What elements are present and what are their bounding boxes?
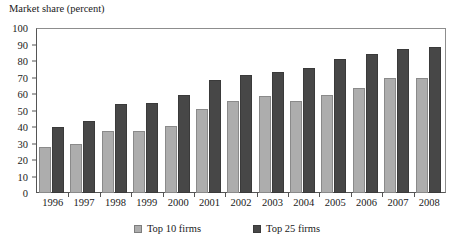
x-tick-mark xyxy=(257,193,258,197)
bar-top-10-firms xyxy=(196,109,208,193)
bar-group xyxy=(37,29,68,193)
x-tick-mark xyxy=(68,193,69,197)
bar-group xyxy=(288,29,319,193)
x-tick-label: 1997 xyxy=(74,197,95,209)
bar-top-10-firms xyxy=(70,144,82,193)
bar-group xyxy=(319,29,350,193)
bar-top-10-firms xyxy=(259,96,271,193)
legend-label: Top 25 firms xyxy=(266,223,320,235)
bar-group xyxy=(225,29,256,193)
bar-group xyxy=(131,29,162,193)
bar-top-25-firms xyxy=(115,104,127,193)
y-axis: 1009080706050403020100 xyxy=(0,28,36,193)
bar-group xyxy=(257,29,288,193)
y-tick-label: 40 xyxy=(18,122,29,133)
x-tick-label: 2005 xyxy=(325,197,346,209)
y-tick-label: 30 xyxy=(18,138,29,149)
bar-group xyxy=(382,29,413,193)
bar-top-25-firms xyxy=(366,54,378,193)
bar-top-10-firms xyxy=(321,95,333,193)
bar-top-25-firms xyxy=(240,75,252,193)
legend-swatch-top-25-firms xyxy=(253,225,261,233)
x-tick-label: 2004 xyxy=(293,197,314,209)
y-tick-label: 10 xyxy=(18,171,29,182)
legend-label: Top 10 firms xyxy=(147,223,201,235)
x-tick-mark xyxy=(319,193,320,197)
bar-top-25-firms xyxy=(397,49,409,193)
bar-top-25-firms xyxy=(209,80,221,193)
y-tick-label: 0 xyxy=(23,188,28,199)
x-tick-mark xyxy=(194,193,195,197)
bar-top-25-firms xyxy=(83,121,95,193)
bar-group xyxy=(351,29,382,193)
bar-top-10-firms xyxy=(384,78,396,193)
y-axis-title: Market share (percent) xyxy=(9,3,105,15)
bar-top-25-firms xyxy=(429,47,441,193)
y-tick-label: 90 xyxy=(18,39,29,50)
x-tick-mark xyxy=(288,193,289,197)
bar-top-10-firms xyxy=(165,126,177,193)
bar-group xyxy=(163,29,194,193)
chart-legend: Top 10 firmsTop 25 firms xyxy=(0,223,454,235)
bar-top-10-firms xyxy=(102,131,114,193)
x-tick-label: 1998 xyxy=(105,197,126,209)
x-tick-label: 1996 xyxy=(42,197,63,209)
y-tick-label: 50 xyxy=(18,105,29,116)
bar-group xyxy=(414,29,445,193)
x-axis: 1996199719981999200020012002200320042005… xyxy=(37,195,445,211)
x-tick-label: 2000 xyxy=(168,197,189,209)
bar-top-10-firms xyxy=(133,131,145,193)
y-tick-label: 60 xyxy=(18,89,29,100)
x-tick-mark xyxy=(382,193,383,197)
bar-chart-figure: Market share (percent) 10090807060504030… xyxy=(0,0,454,249)
bar-top-25-firms xyxy=(303,68,315,193)
bar-top-10-firms xyxy=(353,88,365,193)
x-tick-mark xyxy=(225,193,226,197)
x-tick-mark xyxy=(163,193,164,197)
bar-top-25-firms xyxy=(146,103,158,193)
y-tick-label: 70 xyxy=(18,72,29,83)
bar-top-25-firms xyxy=(178,95,190,193)
x-tick-label: 2002 xyxy=(231,197,252,209)
y-tick-label: 20 xyxy=(18,155,29,166)
x-tick-label: 1999 xyxy=(136,197,157,209)
bar-top-10-firms xyxy=(290,101,302,193)
x-tick-mark xyxy=(351,193,352,197)
bar-top-10-firms xyxy=(39,147,51,193)
bar-top-25-firms xyxy=(52,127,64,193)
x-tick-mark xyxy=(131,193,132,197)
x-tick-label: 2007 xyxy=(387,197,408,209)
legend-swatch-top-10-firms xyxy=(134,225,142,233)
x-tick-mark xyxy=(100,193,101,197)
x-tick-label: 2001 xyxy=(199,197,220,209)
x-tick-mark xyxy=(414,193,415,197)
bar-top-25-firms xyxy=(334,59,346,193)
bar-top-10-firms xyxy=(227,101,239,193)
bar-top-10-firms xyxy=(416,78,428,193)
legend-item: Top 10 firms xyxy=(134,223,201,235)
bar-group xyxy=(68,29,99,193)
bar-top-25-firms xyxy=(272,72,284,193)
bar-group xyxy=(194,29,225,193)
x-tick-label: 2008 xyxy=(419,197,440,209)
bar-group xyxy=(100,29,131,193)
bars-layer xyxy=(37,29,445,193)
y-tick-label: 80 xyxy=(18,56,29,67)
legend-item: Top 25 firms xyxy=(253,223,320,235)
x-tick-label: 2003 xyxy=(262,197,283,209)
y-tick-label: 100 xyxy=(12,23,28,34)
x-tick-label: 2006 xyxy=(356,197,377,209)
